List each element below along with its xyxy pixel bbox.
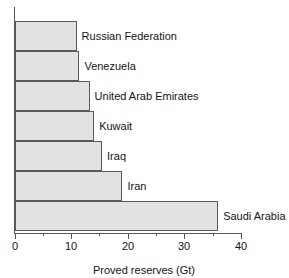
x-tick-minor [43,233,44,236]
bar-rect [15,171,122,201]
x-tick-major [71,233,72,239]
x-tick-label: 20 [122,241,134,252]
bar-rect [15,51,79,81]
x-tick-major [15,233,16,239]
bar-rect [15,201,218,231]
x-tick-label: 40 [235,241,247,252]
x-tick-minor [99,233,100,236]
x-tick-label: 10 [65,241,77,252]
bar-label: Kuwait [99,121,132,132]
bar-rect [15,111,94,141]
x-tick-major [241,233,242,239]
bar-label: Iraq [107,151,126,162]
x-tick-major [128,233,129,239]
bar-rect [15,21,77,51]
x-tick-label: 0 [12,241,18,252]
bar-rect [15,141,102,171]
x-tick-minor [156,233,157,236]
x-tick-minor [213,233,214,236]
bar-label: Saudi Arabia [223,211,285,222]
bar-label: Iran [127,181,146,192]
bar-chart: Russian Federation Venezuela United Arab… [0,0,289,278]
x-tick-major [184,233,185,239]
bar-label: Venezuela [84,61,135,72]
x-tick-label: 30 [178,241,190,252]
bar-rect [15,81,90,111]
bars-layer: Russian Federation Venezuela United Arab… [0,0,289,278]
bar-label: United Arab Emirates [95,91,199,102]
bar-label: Russian Federation [82,31,177,42]
